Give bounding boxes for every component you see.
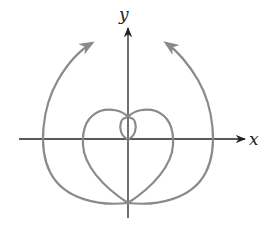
- polar-curve-diagram: y x: [0, 0, 271, 227]
- y-axis-label: y: [118, 4, 129, 24]
- x-axis-label: x: [249, 129, 259, 149]
